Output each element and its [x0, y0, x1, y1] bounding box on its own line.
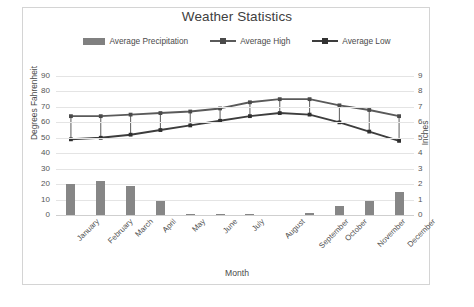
- gridline: [56, 153, 414, 154]
- axis-tick-label: 30: [24, 165, 50, 173]
- axis-tick-label: 0: [24, 211, 50, 219]
- gridline: [56, 91, 414, 92]
- marker-low-november[interactable]: [367, 130, 371, 134]
- x-tick-august: August: [283, 217, 307, 241]
- axis-tick-label: 10: [24, 196, 50, 204]
- x-tick-december: December: [406, 217, 438, 249]
- marker-high-may[interactable]: [188, 110, 192, 114]
- x-tick-november: November: [376, 217, 408, 249]
- series-layer: [56, 76, 414, 215]
- bar-december[interactable]: [395, 192, 404, 215]
- marker-high-april[interactable]: [159, 111, 163, 115]
- marker-high-february[interactable]: [99, 114, 103, 118]
- marker-high-september[interactable]: [308, 97, 312, 101]
- y-axis-left-title: Degrees Fahrenheit: [29, 43, 39, 163]
- marker-high-december[interactable]: [397, 114, 401, 118]
- bar-october[interactable]: [335, 206, 344, 215]
- gridline: [56, 184, 414, 185]
- bar-january[interactable]: [66, 184, 75, 215]
- axis-tick-label: 8: [418, 87, 438, 95]
- bar-september[interactable]: [305, 213, 314, 215]
- x-tick-july: July: [250, 217, 266, 233]
- x-tick-january: January: [75, 217, 101, 243]
- bar-november[interactable]: [365, 201, 374, 215]
- line-average-low[interactable]: [71, 113, 399, 141]
- marker-low-may[interactable]: [188, 124, 192, 128]
- gridline: [56, 138, 414, 139]
- bar-february[interactable]: [96, 181, 105, 215]
- plot-area-wrapper: 9080706050403020100 9876543210 Degrees F…: [0, 0, 474, 307]
- y-axis-right-title: Inches: [420, 98, 430, 168]
- x-tick-march: March: [133, 217, 155, 239]
- marker-high-march[interactable]: [129, 113, 133, 117]
- x-tick-february: February: [106, 217, 134, 245]
- marker-high-november[interactable]: [367, 108, 371, 112]
- bar-march[interactable]: [126, 186, 135, 215]
- axis-tick-label: 9: [418, 72, 438, 80]
- marker-low-april[interactable]: [159, 128, 163, 132]
- axis-tick-label: 1: [418, 196, 438, 204]
- x-tick-april: April: [161, 217, 178, 234]
- marker-high-august[interactable]: [278, 97, 282, 101]
- marker-low-march[interactable]: [129, 133, 133, 137]
- marker-high-july[interactable]: [248, 100, 252, 104]
- bar-may[interactable]: [186, 214, 195, 215]
- marker-low-december[interactable]: [397, 139, 401, 143]
- gridline: [56, 76, 414, 77]
- marker-high-january[interactable]: [69, 114, 73, 118]
- gridline: [56, 200, 414, 201]
- axis-tick-label: 0: [418, 211, 438, 219]
- marker-low-july[interactable]: [248, 114, 252, 118]
- marker-low-august[interactable]: [278, 111, 282, 115]
- x-axis-title: Month: [0, 268, 474, 278]
- bar-april[interactable]: [156, 201, 165, 215]
- gridline: [56, 122, 414, 123]
- x-tick-may: May: [191, 217, 208, 234]
- bar-july[interactable]: [245, 214, 254, 215]
- x-axis-tick-labels: JanuaryFebruaryMarchAprilMayJuneJulyAugu…: [56, 217, 414, 273]
- gridline: [56, 215, 414, 216]
- axis-tick-label: 20: [24, 180, 50, 188]
- marker-low-september[interactable]: [308, 113, 312, 117]
- x-tick-june: June: [221, 217, 239, 235]
- axis-tick-label: 2: [418, 180, 438, 188]
- bar-june[interactable]: [216, 214, 225, 215]
- plot-area: [56, 76, 414, 215]
- gridline: [56, 107, 414, 108]
- gridline: [56, 169, 414, 170]
